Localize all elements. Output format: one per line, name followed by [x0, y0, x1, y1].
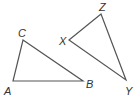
vertex-label-c: C [18, 27, 26, 39]
triangle-abc [13, 40, 83, 81]
vertex-label-y: Y [125, 85, 133, 97]
triangles-diagram: C A B X Z Y [0, 0, 135, 102]
vertex-label-x: X [58, 35, 67, 47]
triangle-xyz [69, 14, 126, 80]
vertex-label-a: A [3, 85, 11, 97]
vertex-label-z: Z [98, 1, 107, 13]
vertex-label-b: B [86, 78, 93, 90]
